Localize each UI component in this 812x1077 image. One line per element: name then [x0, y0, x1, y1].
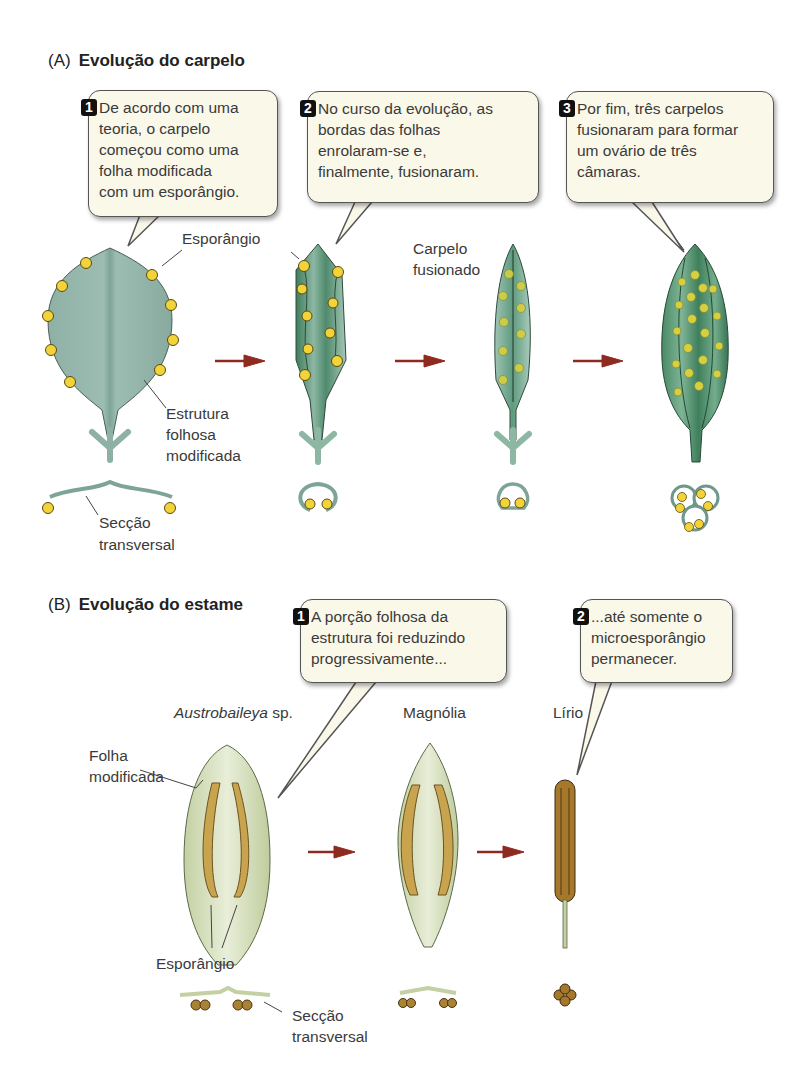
callout-line: câmaras.: [577, 161, 763, 182]
callout-line: estrutura foi reduzindo: [311, 627, 496, 648]
cross-section-magnolia: [399, 988, 457, 1008]
cross-section-fused: [498, 484, 527, 508]
callout-a-step-3: 3 Por fim, três carpelos fusionaram para…: [566, 91, 774, 203]
cross-section-austrobaileya: [180, 988, 282, 1012]
callout-b-step-2: 2 ...até somente o microesporângio perma…: [580, 599, 733, 683]
callout-line: permanecer.: [591, 648, 722, 669]
species-suffix: sp.: [268, 704, 293, 721]
label-magnolia: Magnólia: [403, 703, 466, 723]
callout-line: folha modificada: [99, 160, 267, 181]
section-b-heading: (B)Evolução do estame: [48, 595, 243, 615]
rolled-leaf-illustration: [291, 244, 346, 462]
label-estrutura-line-2: folhosa: [166, 425, 216, 445]
cross-section-three-chambers: [672, 486, 718, 532]
callout-line: No curso da evolução, as: [318, 98, 528, 119]
modified-leaf-illustration: [43, 248, 183, 460]
label-esporangio-b: Esporângio: [156, 954, 234, 974]
fused-carpel-illustration: [495, 244, 531, 462]
callout-line: teoria, o carpelo: [99, 118, 267, 139]
label-carpelo-line-2: fusionado: [413, 260, 480, 280]
callout-line: Por fim, três carpelos: [577, 98, 763, 119]
section-a-tag: (A): [48, 51, 71, 70]
arrow-icon: [215, 355, 623, 367]
label-estrutura-line-3: modificada: [166, 446, 241, 466]
step-number-badge: 1: [81, 99, 97, 116]
label-austrobaileya: Austrobaileya sp.: [174, 703, 293, 723]
cross-section-leaf: [43, 482, 176, 515]
cross-section-lily: [554, 984, 576, 1006]
callout-line: ...até somente o: [591, 606, 722, 627]
label-folha-line-2: modificada: [89, 767, 164, 787]
label-folha-line-1: Folha: [89, 746, 128, 766]
label-esporangio-a: Esporângio: [182, 229, 260, 249]
label-seccao-b-line-2: transversal: [292, 1027, 368, 1047]
callout-line: A porção folhosa da: [311, 606, 496, 627]
step-number-badge: 3: [559, 100, 575, 117]
callout-line: finalmente, fusionaram.: [318, 161, 528, 182]
label-seccao-a-line-1: Secção: [99, 513, 151, 533]
magnolia-stamen-illustration: [398, 743, 458, 947]
step-number-badge: 2: [573, 608, 589, 625]
callout-line: começou como uma: [99, 139, 267, 160]
callout-line: fusionaram para formar: [577, 119, 763, 140]
section-a-heading: (A)Evolução do carpelo: [48, 51, 245, 71]
lily-stamen-illustration: [555, 780, 575, 948]
label-lirio: Lírio: [553, 703, 583, 723]
callout-line: enrolaram-se e,: [318, 140, 528, 161]
section-a-title: Evolução do carpelo: [79, 51, 245, 70]
step-number-badge: 1: [293, 608, 309, 625]
callout-line: bordas das folhas: [318, 119, 528, 140]
species-italic: Austrobaileya: [174, 704, 268, 721]
section-b-title: Evolução do estame: [79, 595, 243, 614]
callout-line: microesporângio: [591, 627, 722, 648]
label-estrutura-line-1: Estrutura: [166, 404, 229, 424]
cross-section-rolled: [300, 484, 335, 510]
callout-line: De acordo com uma: [99, 97, 267, 118]
callout-b-step-1: 1 A porção folhosa da estrutura foi redu…: [300, 599, 507, 683]
callout-a-step-1: 1 De acordo com uma teoria, o carpelo co…: [88, 90, 278, 217]
three-carpel-ovary-illustration: [662, 234, 728, 462]
step-number-badge: 2: [300, 100, 316, 117]
section-b-tag: (B): [48, 595, 71, 614]
callout-a-step-2: 2 No curso da evolução, as bordas das fo…: [307, 91, 539, 203]
label-seccao-b-line-1: Secção: [292, 1006, 344, 1026]
callout-line: um ovário de três: [577, 140, 763, 161]
label-seccao-a-line-2: transversal: [99, 535, 175, 555]
callout-line: com um esporângio.: [99, 181, 267, 202]
label-carpelo-line-1: Carpelo: [413, 239, 467, 259]
callout-line: progressivamente...: [311, 648, 496, 669]
